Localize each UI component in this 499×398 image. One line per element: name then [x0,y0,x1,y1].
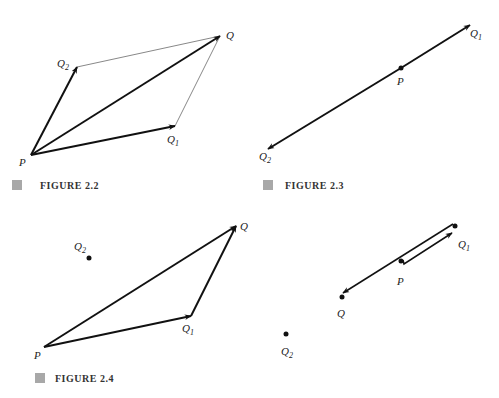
label-p: P [33,349,41,361]
arrow-p-q1 [401,25,470,68]
caption-figure-2-2: FIGURE 2.2 [40,180,99,191]
arrow-p-q [31,36,220,155]
figure-2-2: P Q Q1 Q2 FIGURE 2.2 [12,29,234,191]
point-p [399,66,404,71]
label-q2: Q2 [259,150,271,165]
label-q2: Q2 [281,345,293,360]
figure-2-3: P Q1 Q2 FIGURE 2.3 [259,25,482,191]
label-q2: Q2 [57,57,69,72]
arrow-p-q2 [268,68,401,149]
figure-2-4: P Q Q1 Q2 FIGURE 2.4 [33,220,248,384]
caption-marker [12,180,22,190]
arrow-p-q [44,226,236,347]
label-p: P [18,156,26,168]
point-p [399,259,404,264]
point-q2 [87,256,92,261]
arrow-p-q1 [44,316,191,347]
caption-marker [263,180,273,190]
arrow-p-q2 [31,67,77,155]
point-q1 [453,224,458,229]
figure-2-4-right: P Q Q1 Q2 [281,224,470,361]
thin-line-q2-q [77,36,220,67]
caption-figure-2-4: FIGURE 2.4 [55,373,114,384]
caption-marker [35,373,45,383]
arrow-p-q1 [403,233,452,264]
label-q: Q [240,220,248,232]
label-q2: Q2 [74,240,86,255]
point-q [340,295,345,300]
point-q2 [284,332,289,337]
label-q: Q [226,29,234,41]
label-p: P [396,275,404,287]
label-q1: Q1 [458,238,470,253]
label-q1: Q1 [470,27,482,42]
label-q: Q [337,307,345,319]
caption-figure-2-3: FIGURE 2.3 [285,180,344,191]
label-q1: Q1 [182,322,194,337]
label-p: P [396,75,404,87]
label-q1: Q1 [167,133,179,148]
vector-diagrams: P Q Q1 Q2 FIGURE 2.2 P Q1 Q2 FIGURE 2.3 … [0,0,499,398]
